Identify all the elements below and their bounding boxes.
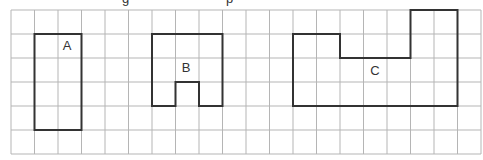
shape-a-label: A <box>63 38 72 53</box>
grid-diagram: g p A B C <box>0 0 483 160</box>
cut-off-heading-fragment-2: p <box>226 0 233 6</box>
shape-c-label: C <box>370 63 379 78</box>
cut-off-heading-fragment-1: g <box>122 0 129 6</box>
grid-svg: A B C <box>0 0 483 160</box>
shape-b: B <box>152 34 223 106</box>
shape-b-label: B <box>182 60 191 75</box>
